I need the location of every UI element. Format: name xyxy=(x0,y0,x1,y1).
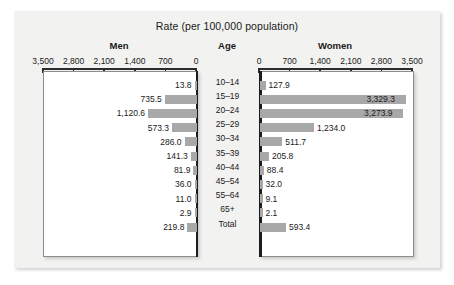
bar-rows-women: 127.93,329.33,273.91,234.0511.7205.888.4… xyxy=(260,72,413,256)
bar-rows-men: 13.8735.51,120.6573.3286.0141.381.936.01… xyxy=(44,72,197,256)
bar xyxy=(165,95,197,104)
chart-figure: Rate (per 100,000 population) Men Age Wo… xyxy=(0,0,454,285)
bar-row: 1,234.0 xyxy=(260,121,413,135)
axis-women-tick-labels: 07001,4002,1002,8003,500 xyxy=(259,56,426,67)
bar-value-label: 205.8 xyxy=(269,151,296,161)
age-category-label: 55–64 xyxy=(196,188,259,202)
bar-value-label: 1,120.6 xyxy=(114,108,148,118)
bar-value-label: 13.8 xyxy=(172,80,195,90)
bar-value-label: 3,273.9 xyxy=(361,108,395,118)
axis-tick-label: 700 xyxy=(283,56,297,66)
bar-row: 2.9 xyxy=(44,206,197,220)
column-header-age: Age xyxy=(192,40,262,51)
bar-row: 219.8 xyxy=(44,220,197,234)
age-category-label: 20–24 xyxy=(196,103,259,117)
bar-value-label: 2.1 xyxy=(263,208,281,218)
axis-tick-label: 3,500 xyxy=(32,56,53,66)
bar-row: 36.0 xyxy=(44,177,197,191)
bar-value-label: 11.0 xyxy=(173,194,195,204)
bar-row: 573.3 xyxy=(44,121,197,135)
bar-row: 286.0 xyxy=(44,135,197,149)
age-category-label: 65+ xyxy=(196,202,259,216)
bar-row: 593.4 xyxy=(260,220,413,234)
axis-tick-label: 0 xyxy=(194,56,199,66)
bar xyxy=(148,109,197,118)
bar-row: 81.9 xyxy=(44,163,197,177)
bar xyxy=(260,223,286,232)
bar-value-label: 141.3 xyxy=(164,151,191,161)
age-category-label: Total xyxy=(196,217,259,231)
axis-tick-label: 2,800 xyxy=(63,56,84,66)
chart-title: Rate (per 100,000 population) xyxy=(14,20,440,32)
bar-value-label: 286.0 xyxy=(157,137,184,147)
age-category-label: 30–34 xyxy=(196,131,259,145)
axis-tick-label: 0 xyxy=(257,56,262,66)
age-category-column: 10–1415–1920–2425–2930–3435–3940–4445–54… xyxy=(196,71,259,255)
bar-row: 3,329.3 xyxy=(260,92,413,106)
age-category-label: 40–44 xyxy=(196,160,259,174)
axis-tick-label: 2,100 xyxy=(340,56,361,66)
column-header-men: Men xyxy=(44,40,194,51)
bar-row: 9.1 xyxy=(260,192,413,206)
bar-row: 32.0 xyxy=(260,177,413,191)
axis-tick-label: 1,400 xyxy=(124,56,145,66)
chart-panel: Rate (per 100,000 population) Men Age Wo… xyxy=(14,11,440,268)
bar-row: 3,273.9 xyxy=(260,106,413,120)
axis-men-tick-labels: 3,5002,8002,1001,4007000 xyxy=(29,56,196,67)
age-category-label: 15–19 xyxy=(196,89,259,103)
bar-row: 205.8 xyxy=(260,149,413,163)
bar xyxy=(260,123,314,132)
age-category-label: 25–29 xyxy=(196,117,259,131)
bar-row: 13.8 xyxy=(44,78,197,92)
plot-area-men: 13.8735.51,120.6573.3286.0141.381.936.01… xyxy=(43,71,198,257)
bar-row: 127.9 xyxy=(260,78,413,92)
bar-value-label: 2.9 xyxy=(177,208,195,218)
axis-men-line xyxy=(43,68,196,70)
bar-value-label: 127.9 xyxy=(266,80,293,90)
bar xyxy=(260,152,269,161)
age-category-label: 10–14 xyxy=(196,75,259,89)
bar-value-label: 593.4 xyxy=(286,222,313,232)
bar-row: 1,120.6 xyxy=(44,106,197,120)
axis-tick-label: 700 xyxy=(158,56,172,66)
axis-tick-label: 3,500 xyxy=(401,56,422,66)
bar-value-label: 88.4 xyxy=(264,165,287,175)
bar-value-label: 9.1 xyxy=(263,194,281,204)
bar xyxy=(260,137,282,146)
bar xyxy=(172,123,197,132)
axis-women-line xyxy=(259,68,412,70)
axis-tick-label: 1,400 xyxy=(310,56,331,66)
column-header-women: Women xyxy=(260,40,410,51)
plot-area-women: 127.93,329.33,273.91,234.0511.7205.888.4… xyxy=(259,71,414,257)
axis-tick-label: 2,800 xyxy=(371,56,392,66)
age-category-label: 45–54 xyxy=(196,174,259,188)
bar-value-label: 36.0 xyxy=(172,179,195,189)
bar-row: 735.5 xyxy=(44,92,197,106)
bar-row: 88.4 xyxy=(260,163,413,177)
bar-value-label: 219.8 xyxy=(160,222,187,232)
axis-tick-label: 2,100 xyxy=(94,56,115,66)
bar-value-label: 1,234.0 xyxy=(314,123,348,133)
bar-value-label: 81.9 xyxy=(171,165,194,175)
bar-row: 511.7 xyxy=(260,135,413,149)
bar-row: 11.0 xyxy=(44,192,197,206)
bar-value-label: 735.5 xyxy=(138,94,165,104)
bar-value-label: 511.7 xyxy=(282,137,309,147)
bar-value-label: 573.3 xyxy=(145,123,172,133)
bar-row: 2.1 xyxy=(260,206,413,220)
bar-row: 141.3 xyxy=(44,149,197,163)
bar-value-label: 32.0 xyxy=(263,179,286,189)
bar-value-label: 3,329.3 xyxy=(364,94,398,104)
age-category-label: 35–39 xyxy=(196,146,259,160)
